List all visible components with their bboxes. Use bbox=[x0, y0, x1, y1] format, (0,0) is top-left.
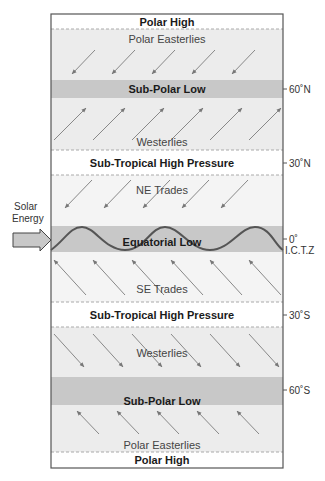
label-polar-high-n: Polar High bbox=[139, 16, 194, 28]
lat-30s: 30˚S bbox=[289, 310, 310, 321]
label-ne-trades: NE Trades bbox=[136, 184, 188, 196]
label-westerlies-n: Westerlies bbox=[136, 136, 188, 148]
lat-30n: 30˚N bbox=[289, 158, 311, 169]
label-se-trades: SE Trades bbox=[136, 283, 188, 295]
label-polar-easterlies-s: Polar Easterlies bbox=[123, 439, 201, 451]
solar-label-line2: Energy bbox=[12, 213, 44, 224]
label-sub-tropical-high-n: Sub-Tropical High Pressure bbox=[90, 157, 234, 169]
global-wind-circulation-diagram: Polar High Polar Easterlies Sub-Polar Lo… bbox=[0, 0, 325, 481]
label-sub-polar-low-n: Sub-Polar Low bbox=[129, 83, 206, 95]
lat-60n: 60˚N bbox=[289, 84, 311, 95]
lat-itcz: I.C.T.Z bbox=[285, 245, 314, 256]
solar-label-line1: Solar bbox=[14, 201, 38, 212]
lat-60s: 60˚S bbox=[289, 385, 310, 396]
label-westerlies-s: Westerlies bbox=[136, 347, 188, 359]
solar-arrow-icon bbox=[13, 229, 51, 251]
label-polar-high-s: Polar High bbox=[134, 454, 189, 466]
label-polar-easterlies-n: Polar Easterlies bbox=[128, 33, 206, 45]
label-equatorial-low: Equatorial Low bbox=[123, 236, 202, 248]
latitude-markers bbox=[283, 89, 287, 390]
label-sub-tropical-high-s: Sub-Tropical High Pressure bbox=[90, 309, 234, 321]
label-sub-polar-low-s: Sub-Polar Low bbox=[124, 395, 201, 407]
solar-energy-indicator: Solar Energy bbox=[12, 201, 51, 251]
lat-0: 0˚ bbox=[289, 234, 298, 245]
latitude-labels: 60˚N 30˚N 0˚ I.C.T.Z 30˚S 60˚S bbox=[285, 84, 314, 396]
